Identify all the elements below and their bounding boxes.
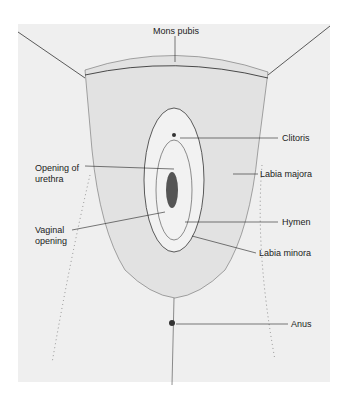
label-anus: Anus [291, 319, 312, 329]
label-hymen: Hymen [282, 217, 311, 227]
label-labia-majora: Labia majora [260, 169, 312, 179]
label-labia-minora: Labia minora [259, 248, 311, 258]
label-opening-of-urethra-line1: Opening of [35, 163, 79, 173]
label-vaginal-opening-line1: Vaginal [35, 225, 64, 235]
label-opening-of-urethra-line2: urethra [35, 174, 64, 184]
illustration [0, 0, 348, 405]
label-clitoris: Clitoris [282, 133, 310, 143]
label-vaginal-opening-line2: opening [35, 236, 67, 246]
anatomy-figure: Mons pubis Clitoris Opening of urethra L… [0, 0, 348, 405]
label-mons-pubis: Mons pubis [153, 26, 199, 36]
